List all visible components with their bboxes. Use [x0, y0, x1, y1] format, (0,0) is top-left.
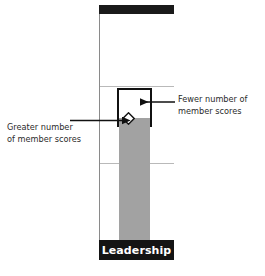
category-label-text: Leadership	[102, 245, 172, 256]
median-diamond-marker	[122, 110, 135, 123]
fewer-scores-annotation: Fewer number of member scores	[178, 94, 264, 117]
maximum-cap-bar	[99, 5, 174, 14]
shaded-value-column	[119, 126, 150, 240]
y-axis-line	[99, 6, 100, 258]
chart-container: Leadership Fewer number of member scores…	[0, 0, 265, 276]
gridline-upper	[100, 86, 174, 87]
category-label-bar: Leadership	[99, 240, 174, 260]
greater-scores-annotation: Greater number of member scores	[7, 122, 99, 145]
